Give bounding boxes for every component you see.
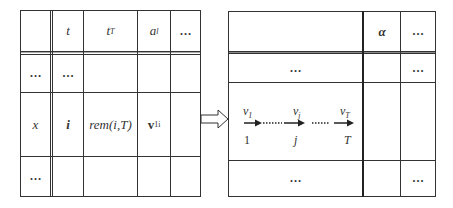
header-ellipsis: … xyxy=(171,11,200,51)
row3-ellipsis-right: … xyxy=(401,161,435,196)
header-a-l-sub: l xyxy=(156,27,158,36)
arrow-head-icon xyxy=(255,120,262,127)
sequence-arrows xyxy=(242,118,362,128)
index-T: T xyxy=(344,133,351,148)
header-t-T: tT xyxy=(84,11,137,51)
header-t-T-sub: T xyxy=(110,27,114,36)
row1-ellipsis-col0: … xyxy=(21,55,50,92)
row3-ellipsis-col0: … xyxy=(21,157,50,196)
hollow-right-arrow-icon xyxy=(199,108,231,130)
header-ellipsis: … xyxy=(401,12,435,51)
row2-rem: rem(i,T) xyxy=(84,93,137,156)
arrow-head-icon xyxy=(347,120,354,127)
row2-i: i xyxy=(53,93,83,156)
row3-ellipsis: … xyxy=(229,161,362,196)
header-t: t xyxy=(53,11,83,51)
header-alpha: α xyxy=(364,12,400,51)
row2-v1i-sub: 1i xyxy=(154,120,160,129)
row2-x: x xyxy=(21,93,50,156)
arrow-head-icon xyxy=(298,120,305,127)
row1-ellipsis-right: … xyxy=(401,54,435,82)
index-1: 1 xyxy=(244,133,250,148)
row1-ellipsis: … xyxy=(229,54,362,82)
row1-ellipsis-col1: … xyxy=(53,55,83,92)
row2-v1i: v1i xyxy=(138,93,170,156)
header-a-l: al xyxy=(138,11,170,51)
index-j: j xyxy=(294,133,297,148)
